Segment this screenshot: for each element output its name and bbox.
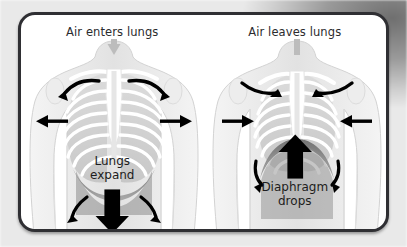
diaphragm-arrow-icon-up [204, 133, 387, 179]
inhalation-label-line1: Lungs [21, 155, 204, 169]
inhalation-label-line2: expand [21, 169, 204, 183]
panel-inhalation: Air enters lungs [21, 15, 204, 229]
panel-inhalation-caption: Air enters lungs [21, 25, 204, 39]
panel-exhalation-caption: Air leaves lungs [204, 25, 387, 39]
exhalation-label-line1: Diaphragm [204, 181, 387, 195]
exhalation-label-line2: drops [204, 195, 387, 209]
diaphragm-arrow-icon-down [21, 189, 204, 232]
panel-exhalation: Air leaves lungs [204, 15, 387, 229]
inhalation-label: Lungs expand [21, 155, 204, 182]
diagram-card: Air enters lungs [18, 12, 389, 232]
exhalation-label: Diaphragm drops [204, 181, 387, 208]
